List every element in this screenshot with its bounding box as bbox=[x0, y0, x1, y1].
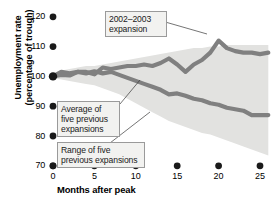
x-tick-label: 25 bbox=[250, 171, 270, 181]
x-tick-label: 5 bbox=[84, 171, 104, 181]
x-tick-dot bbox=[257, 162, 264, 169]
x-axis-label: Months after peak bbox=[57, 184, 136, 195]
x-tick-dot bbox=[215, 162, 222, 169]
y-tick-dot bbox=[50, 43, 57, 50]
callout-range-five-previous-expansions: Range of five previous expansions bbox=[57, 142, 145, 168]
y-tick-dot bbox=[50, 133, 57, 140]
y-tick-dot bbox=[50, 103, 57, 110]
y-tick-label: 90 bbox=[21, 101, 45, 111]
y-tick-label: 80 bbox=[21, 131, 45, 141]
x-tick-label: 20 bbox=[209, 171, 229, 181]
y-tick-dot bbox=[50, 13, 57, 20]
x-tick-label: 15 bbox=[167, 171, 187, 181]
callout-2002-2003-expansion: 2002–2003 expansion bbox=[105, 11, 167, 37]
x-tick-label: 0 bbox=[43, 171, 63, 181]
y-tick-label: 120 bbox=[21, 11, 45, 21]
y-tick-label: 100 bbox=[21, 71, 45, 81]
callout-average-five-previous-expansions: Average of five previous expansions bbox=[57, 101, 120, 137]
y-tick-label: 110 bbox=[21, 41, 45, 51]
x-tick-dot bbox=[174, 162, 181, 169]
x-tick-label: 10 bbox=[126, 171, 146, 181]
y-tick-dot bbox=[50, 73, 57, 80]
x-tick-dot bbox=[50, 162, 57, 169]
y-axis-tick-dots bbox=[50, 13, 57, 169]
y-tick-label: 70 bbox=[21, 160, 45, 170]
chart-container: Unemployment rate (percentage of trough)… bbox=[0, 0, 278, 206]
